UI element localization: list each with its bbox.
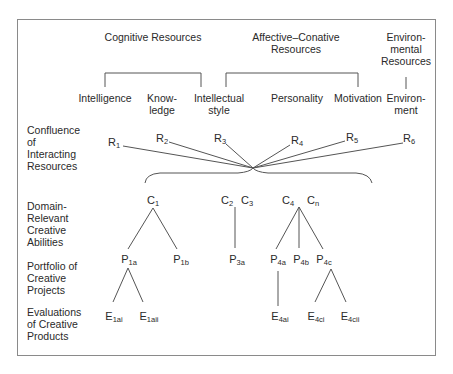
r2-line bbox=[169, 142, 253, 168]
resource-environment: Environ- ment bbox=[386, 92, 425, 116]
r1-line bbox=[123, 146, 253, 168]
node-p4b: P4b bbox=[293, 253, 309, 265]
node-p3a: P3a bbox=[229, 253, 245, 265]
group-affective-conative: Affective–Conative Resources bbox=[252, 31, 339, 55]
confluence-brace bbox=[145, 168, 372, 183]
group-cognitive: Cognitive Resources bbox=[105, 31, 202, 43]
affective-bracket bbox=[226, 73, 358, 87]
resource-knowledge: Know- ledge bbox=[147, 92, 177, 116]
node-p1b: P1b bbox=[173, 253, 189, 265]
node-p4c: P4c bbox=[316, 253, 331, 265]
node-e4ai: E4ai bbox=[271, 310, 288, 322]
node-r6: R6 bbox=[403, 132, 415, 144]
node-e4cii: E4cii bbox=[341, 310, 360, 322]
node-r1: R1 bbox=[108, 136, 120, 148]
resource-motivation: Motivation bbox=[334, 92, 382, 104]
row-label-confluence: Confluence of Interacting Resources bbox=[27, 124, 80, 172]
node-e1ai: E1ai bbox=[105, 310, 122, 322]
group-environmental: Environ- mental Resources bbox=[381, 31, 431, 67]
node-r2: R2 bbox=[156, 132, 168, 144]
node-e1aii: E1aii bbox=[139, 310, 158, 322]
node-c2: C2 bbox=[221, 194, 233, 206]
row-label-evaluations: Evaluations of Creative Products bbox=[27, 306, 81, 342]
r6-line bbox=[253, 143, 403, 168]
node-c4: C4 bbox=[282, 194, 294, 206]
row-label-portfolio: Portfolio of Creative Projects bbox=[27, 260, 77, 296]
node-e4ci: E4ci bbox=[308, 310, 325, 322]
node-cn: Cn bbox=[307, 194, 319, 206]
node-c3: C3 bbox=[241, 194, 253, 206]
node-r3: R3 bbox=[214, 132, 226, 144]
node-r4: R4 bbox=[291, 134, 303, 146]
node-c1: C1 bbox=[147, 194, 159, 206]
resource-intelligence: Intelligence bbox=[78, 92, 131, 104]
resource-personality: Personality bbox=[271, 92, 323, 104]
node-r5: R5 bbox=[346, 131, 358, 143]
cognitive-bracket bbox=[105, 73, 201, 87]
resource-intellectual-style: Intellectual style bbox=[194, 92, 244, 116]
node-p4a: P4a bbox=[270, 253, 286, 265]
node-p1a: P1a bbox=[121, 253, 137, 265]
row-label-domain-abilities: Domain- Relevant Creative Abilities bbox=[27, 200, 68, 248]
